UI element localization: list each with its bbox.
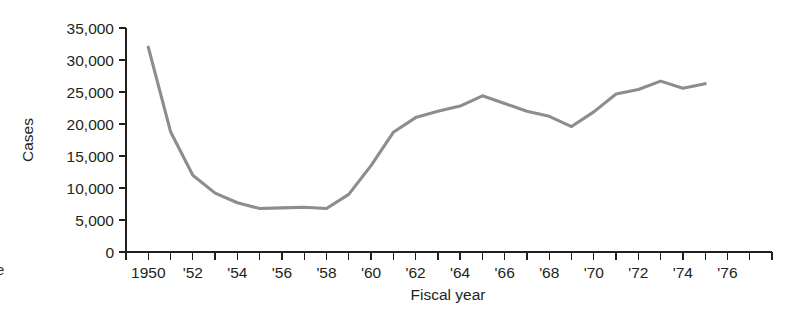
y-axis-tick-label: 25,000 — [67, 84, 115, 101]
y-axis-label: Cases — [19, 118, 36, 162]
x-axis-tick-labels: 1950'52'54'56'58'60'62'64'66'68'70'72'74… — [131, 264, 738, 281]
x-axis-ticks — [126, 252, 772, 260]
chart-figure: e 05,00010,00015,00020,00025,00030,00035… — [0, 0, 800, 318]
x-axis-tick-label: '60 — [361, 264, 382, 281]
y-axis-tick-label: 35,000 — [67, 20, 115, 37]
chart-axes — [126, 28, 772, 252]
x-axis-tick-label: '56 — [272, 264, 292, 281]
line-chart: 05,00010,00015,00020,00025,00030,00035,0… — [0, 0, 800, 318]
x-axis-tick-label: '58 — [316, 264, 336, 281]
x-axis-tick-label: '74 — [673, 264, 694, 281]
x-axis-tick-label: '76 — [717, 264, 737, 281]
data-series-line — [148, 47, 705, 208]
x-axis-tick-label: '68 — [539, 264, 559, 281]
x-axis-tick-label: '54 — [227, 264, 248, 281]
y-axis-ticks — [119, 28, 126, 252]
y-axis-tick-labels: 05,00010,00015,00020,00025,00030,00035,0… — [67, 20, 115, 261]
x-axis-tick-label: '66 — [495, 264, 515, 281]
y-axis-tick-label: 5,000 — [75, 212, 114, 229]
y-axis-tick-label: 10,000 — [67, 180, 115, 197]
y-axis-tick-label: 20,000 — [67, 116, 115, 133]
x-axis-tick-label: '72 — [628, 264, 648, 281]
y-axis-tick-label: 0 — [105, 244, 114, 261]
y-axis-tick-label: 15,000 — [67, 148, 115, 165]
x-axis-tick-label: '62 — [405, 264, 425, 281]
x-axis-tick-label: '64 — [450, 264, 471, 281]
x-axis-label: Fiscal year — [411, 286, 486, 303]
x-axis-tick-label: 1950 — [131, 264, 166, 281]
y-axis-tick-label: 30,000 — [67, 52, 115, 69]
x-axis-tick-label: '70 — [584, 264, 605, 281]
x-axis-tick-label: '52 — [183, 264, 203, 281]
